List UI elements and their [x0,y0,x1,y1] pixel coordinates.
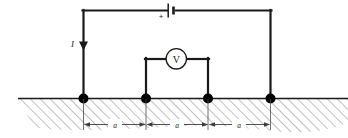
ground-hatching [0,95,348,138]
current-label: I [70,39,75,49]
spacing-label-3: a [237,121,241,130]
circuit-diagram-svg: + I V [0,0,348,138]
down-arrow-icon [79,42,88,51]
battery-symbol [168,4,173,18]
voltmeter-label: V [173,54,181,65]
voltmeter-gauge: V [166,49,186,69]
ground-region [0,95,348,138]
current-direction-arrow [79,42,88,51]
battery-polarity-label: + [159,12,164,21]
resistivity-diagram-figure: + I V [0,0,348,138]
spacing-label-2: a [175,121,179,130]
spacing-label-1: a [113,121,117,130]
